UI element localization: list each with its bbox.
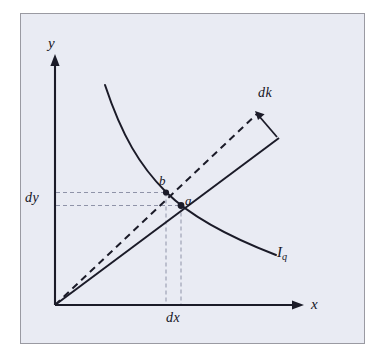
point-b-label: b <box>159 174 166 187</box>
dk-label: dk <box>258 86 272 100</box>
figure-panel <box>20 13 365 344</box>
x-axis-label: x <box>311 297 318 312</box>
y-axis-label: y <box>48 36 55 51</box>
curve-iq-label: Iq <box>277 245 287 262</box>
dy-label: dy <box>25 191 39 205</box>
figure-root: y x b a dk dy dx Iq <box>0 0 386 356</box>
point-a-label: a <box>185 194 192 207</box>
curve-iq-subscript: q <box>282 251 287 262</box>
dx-label: dx <box>166 311 180 325</box>
